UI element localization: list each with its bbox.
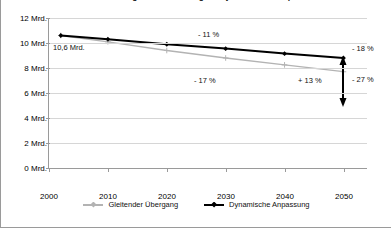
legend-label-gleitender-uebergang: Gleitender Übergang xyxy=(108,200,178,209)
legend-item-dynamische-anpassung[interactable]: Dynamische Anpassung xyxy=(204,200,309,209)
black-series-change-label: - 11 % xyxy=(198,30,219,39)
gridline-4 xyxy=(49,118,367,119)
y-tick-label-8: 8 Mrd. xyxy=(3,64,47,73)
y-tick-mark-8 xyxy=(46,68,50,69)
gap-change-label: + 13 % xyxy=(298,76,322,85)
gap-arrow-2050 xyxy=(340,56,347,107)
gridline-12 xyxy=(49,18,367,19)
y-tick-mark-2 xyxy=(46,143,50,144)
start-value-label: 10,6 Mrd. xyxy=(53,43,85,52)
y-tick-label-2: 2 Mrd. xyxy=(3,139,47,148)
y-tick-label-12: 12 Mrd. xyxy=(3,14,47,23)
legend-label-dynamische-anpassung: Dynamische Anpassung xyxy=(229,200,309,209)
x-axis-line xyxy=(49,168,367,169)
y-tick-mark-4 xyxy=(46,118,50,119)
y-tick-mark-6 xyxy=(46,93,50,94)
gridline-8 xyxy=(49,68,367,69)
gray-series-change-label: - 17 % xyxy=(194,76,216,85)
chart-title: Entwicklung der Rentenausgaben je nach R… xyxy=(1,0,391,1)
y-axis-labels: 12 Mrd. 10 Mrd. 8 Mrd. 6 Mrd. 4 Mrd. 2 M… xyxy=(1,18,47,168)
y-tick-label-0: 0 Mrd. xyxy=(3,164,47,173)
x-tick-mark-2040 xyxy=(285,168,286,172)
x-tick-mark-2020 xyxy=(167,168,168,172)
x-tick-mark-2010 xyxy=(108,168,109,172)
plot-area: 2000 2010 2020 2030 2040 2050 10,6 Mrd. … xyxy=(49,18,367,168)
x-tick-mark-2050 xyxy=(344,168,345,172)
legend-swatch-gray-line-icon xyxy=(83,201,103,209)
gray-endpoint-change-label: - 27 % xyxy=(352,75,374,84)
x-tick-mark-2000 xyxy=(49,168,50,172)
x-tick-mark-2030 xyxy=(226,168,227,172)
y-tick-label-10: 10 Mrd. xyxy=(3,39,47,48)
chart-figure: Entwicklung der Rentenausgaben je nach R… xyxy=(0,0,391,228)
gridline-10 xyxy=(49,43,367,44)
legend-swatch-black-line-icon xyxy=(204,201,224,209)
y-tick-label-4: 4 Mrd. xyxy=(3,114,47,123)
y-tick-mark-12 xyxy=(46,18,50,19)
y-tick-mark-10 xyxy=(46,43,50,44)
legend-item-gleitender-uebergang[interactable]: Gleitender Übergang xyxy=(83,200,178,209)
gridline-2 xyxy=(49,143,367,144)
y-tick-label-6: 6 Mrd. xyxy=(3,89,47,98)
chart-legend: Gleitender Übergang Dynamische Anpassung xyxy=(1,200,391,209)
black-endpoint-change-label: - 18 % xyxy=(352,44,374,53)
gridline-6 xyxy=(49,93,367,94)
